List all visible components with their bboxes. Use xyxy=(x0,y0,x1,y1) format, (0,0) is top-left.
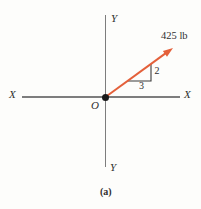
x-axis-label-left: X xyxy=(9,89,16,100)
slope-rise-label: 2 xyxy=(155,66,160,76)
y-axis-line xyxy=(105,15,107,167)
force-magnitude-label: 425 lb xyxy=(161,31,188,42)
origin-point xyxy=(102,94,109,101)
origin-label: O xyxy=(91,100,99,111)
figure-caption: (a) xyxy=(100,187,112,197)
x-axis-line xyxy=(22,96,180,98)
slope-run-label: 3 xyxy=(139,81,144,91)
y-axis-label-bottom: Y xyxy=(110,162,116,173)
force-vector-diagram: X X Y Y O 425 lb 2 3 (a) xyxy=(0,0,201,209)
slope-triangle-lines xyxy=(127,64,151,81)
vector-arrowhead-icon xyxy=(163,48,173,57)
x-axis-label-right: X xyxy=(184,89,191,100)
y-axis-label-top: Y xyxy=(111,13,117,24)
